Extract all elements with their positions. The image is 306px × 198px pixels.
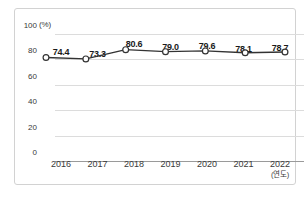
x-tick-label-2016: 2016 (41, 159, 81, 169)
y-tick-label-0: 0 (11, 149, 37, 157)
x-axis-unit-label: (연도) (260, 170, 300, 179)
y-tick-label-20: 20 (11, 124, 37, 132)
gridline-100 (55, 34, 304, 35)
data-label-2019: 79.0 (151, 42, 191, 52)
gridline-80 (55, 59, 304, 60)
data-label-2016: 74.4 (41, 47, 81, 57)
x-tick-label-2017: 2017 (78, 159, 118, 169)
y-tick-label-100: 100 (11, 22, 37, 30)
y-axis-unit-label: (%) (39, 20, 51, 29)
data-label-2021: 78.1 (224, 44, 264, 54)
y-tick-label-40: 40 (11, 98, 37, 106)
chart-screenshot: (%) 100 80 60 40 20 0 2016 2017 2018 201… (0, 0, 306, 198)
gridline-60 (55, 85, 304, 86)
y-tick-label-80: 80 (11, 47, 37, 55)
data-label-2018: 80.6 (114, 39, 154, 49)
y-tick-label-60: 60 (11, 73, 37, 81)
data-label-2020: 79.6 (187, 41, 227, 51)
x-tick-label-2018: 2018 (114, 159, 154, 169)
x-tick-label-2020: 2020 (187, 159, 227, 169)
chart-frame: (%) 100 80 60 40 20 0 2016 2017 2018 201… (14, 8, 296, 185)
gridline-20 (55, 136, 304, 137)
x-tick-label-2021: 2021 (224, 159, 264, 169)
gridline-40 (55, 110, 304, 111)
x-tick-label-2022: 2022 (260, 159, 300, 169)
x-tick-label-2019: 2019 (151, 159, 191, 169)
data-label-2017: 73.3 (78, 49, 118, 59)
data-label-2022: 78.7 (260, 43, 300, 53)
